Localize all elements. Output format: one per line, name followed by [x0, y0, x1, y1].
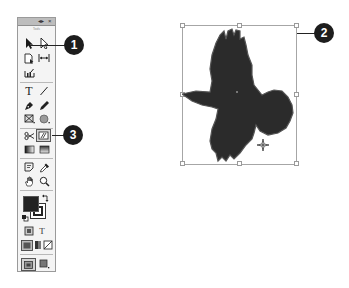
selection-tool[interactable]: [22, 37, 36, 49]
page-tool[interactable]: [22, 52, 36, 64]
close-icon[interactable]: ×: [48, 18, 52, 25]
preview-mode-icon: [39, 259, 50, 269]
line-tool[interactable]: [37, 85, 51, 97]
apply-none-icon: [43, 240, 53, 250]
type-icon: T: [25, 85, 32, 97]
normal-mode-icon: [24, 261, 33, 269]
pen-icon: [24, 100, 35, 111]
callout-2: 2: [314, 23, 334, 43]
container-icon: [24, 226, 34, 236]
rectangle-frame-tool[interactable]: [22, 113, 36, 125]
hand-icon: [24, 176, 35, 187]
callout-line-1: [30, 45, 66, 46]
gradient-swatch-icon: [24, 145, 35, 154]
divider: [20, 190, 53, 191]
divider: [20, 158, 53, 159]
type-tool[interactable]: T: [22, 85, 36, 97]
panel-title: Tools: [18, 27, 55, 31]
divider: [20, 254, 53, 255]
ellipse-icon: [39, 114, 50, 124]
callout-1: 1: [64, 35, 84, 55]
apply-none-button[interactable]: [41, 239, 55, 251]
default-fill-stroke-icon[interactable]: [21, 214, 29, 222]
preview-mode-button[interactable]: [37, 258, 51, 270]
eyedropper-tool[interactable]: [37, 161, 51, 173]
pencil-tool[interactable]: [37, 99, 51, 111]
fill-swatch[interactable]: [23, 196, 39, 212]
rectangle-frame-icon: [24, 114, 35, 124]
note-tool[interactable]: [22, 161, 36, 173]
direct-selection-tool[interactable]: [37, 37, 51, 49]
content-collector-icon: [24, 68, 35, 78]
pencil-icon: [39, 100, 50, 111]
note-icon: [24, 162, 35, 172]
selection-arrow-icon: [24, 38, 34, 49]
ellipse-tool[interactable]: [37, 113, 51, 125]
normal-mode-button[interactable]: [21, 258, 36, 271]
eyedropper-icon: [39, 162, 50, 173]
swap-fill-stroke-icon[interactable]: [42, 194, 50, 202]
panel-header[interactable]: ◂▸ ×: [18, 18, 55, 26]
gradient-feather-tool[interactable]: [37, 143, 51, 155]
scissors-tool[interactable]: [22, 130, 36, 142]
pen-tool[interactable]: [22, 99, 36, 111]
gradient-feather-icon: [39, 145, 50, 154]
collapse-icon[interactable]: ◂▸: [38, 18, 44, 25]
page-icon: [24, 53, 34, 64]
line-icon: [39, 86, 49, 96]
gap-icon: [38, 53, 50, 63]
zoom-tool[interactable]: [37, 175, 51, 187]
magnifier-icon: [39, 176, 50, 187]
gap-tool[interactable]: [37, 52, 51, 64]
callout-3: 3: [63, 125, 83, 145]
fill-stroke-swatches: [21, 193, 51, 223]
callout-line-2: [297, 33, 315, 34]
reference-point-icon[interactable]: [257, 139, 269, 151]
direct-selection-arrow-icon: [39, 38, 49, 49]
content-collector-tool[interactable]: [22, 67, 36, 79]
scissors-icon: [24, 131, 35, 141]
tools-panel: ◂▸ × Tools: [17, 17, 56, 272]
gradient-swatch-tool[interactable]: [22, 143, 36, 155]
free-transform-icon: [38, 131, 49, 140]
divider: [20, 82, 53, 83]
text-format-icon: T: [39, 226, 45, 236]
free-transform-tool[interactable]: [36, 129, 51, 142]
formatting-affects-container[interactable]: [22, 225, 36, 237]
bird-silhouette[interactable]: [182, 25, 297, 165]
hand-tool[interactable]: [22, 175, 36, 187]
formatting-affects-text[interactable]: T: [35, 225, 49, 237]
